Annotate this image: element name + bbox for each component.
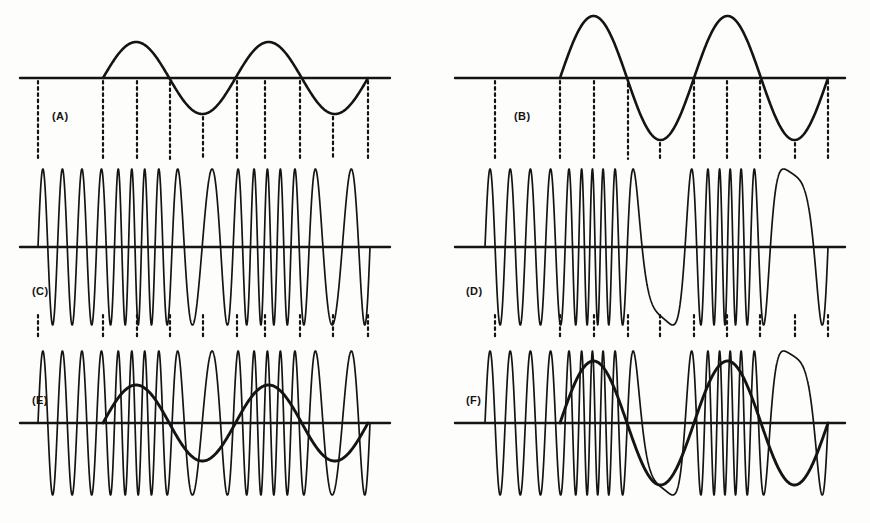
panel-label-c: (C) (32, 285, 48, 297)
waveform-canvas (0, 0, 870, 523)
panel-label-f: (F) (466, 394, 481, 406)
panel-label-a: (A) (52, 110, 68, 122)
panel-label-b: (B) (514, 110, 530, 122)
panel-label-e: (E) (32, 394, 48, 406)
panel-label-d: (D) (466, 285, 482, 297)
fm-waveform-figure: (A) (B) (C) (D) (E) (F) (0, 0, 870, 523)
